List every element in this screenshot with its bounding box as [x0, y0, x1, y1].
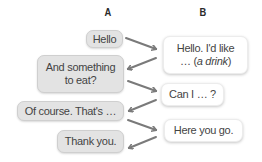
bubble-text: Hello — [93, 33, 117, 46]
bubble-text: Of course. That's … — [25, 105, 117, 118]
bubble-text: Can I … ? — [169, 88, 216, 101]
speaker-a-bubble-2: And something to eat? — [37, 55, 124, 93]
line-suffix: ) — [228, 55, 231, 67]
bubble-text-line-2: to eat? — [65, 74, 97, 87]
arrow-left-icon — [129, 100, 156, 111]
column-label-b: B — [200, 6, 207, 18]
speaker-a-bubble-3: Of course. That's … — [17, 101, 124, 121]
speaker-b-bubble-1: Hello. I'd like … (a drink) — [163, 36, 248, 74]
arrow-left-icon — [128, 58, 156, 69]
arrow-right-icon — [126, 38, 156, 49]
arrow-left-icon — [129, 137, 156, 148]
line-prefix: … ( — [180, 55, 197, 67]
speaker-a-bubble-4: Thank you. — [57, 130, 124, 153]
speaker-b-bubble-3: Here you go. — [164, 119, 243, 142]
bubble-text-line-1: And something — [46, 61, 115, 74]
bubble-text: Thank you. — [65, 135, 116, 148]
arrow-right-icon — [128, 120, 156, 130]
bubble-text-line-2: … (a drink) — [180, 55, 231, 68]
bubble-text-line-1: Hello. I'd like — [177, 42, 235, 55]
arrow-right-icon — [128, 81, 156, 91]
speaker-a-bubble-1: Hello — [86, 30, 123, 48]
speaker-b-bubble-2: Can I … ? — [161, 83, 224, 106]
column-label-a: A — [105, 6, 112, 18]
italic-hint: a drink — [197, 55, 228, 67]
bubble-text: Here you go. — [174, 124, 233, 137]
